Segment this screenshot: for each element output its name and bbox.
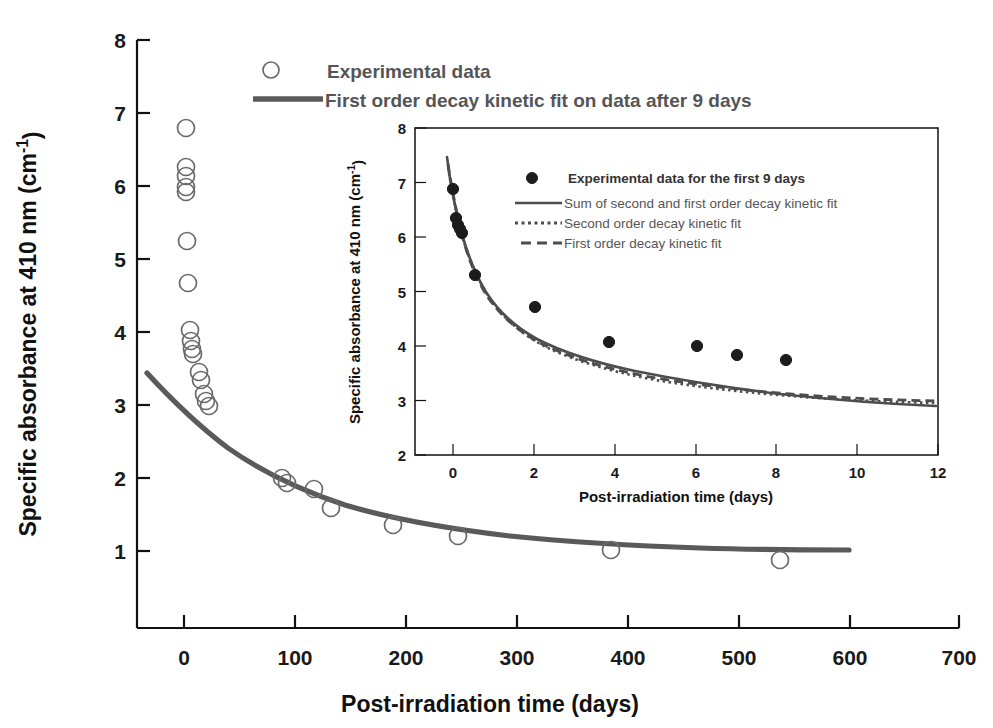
main-y-tick-3: 3 (114, 394, 126, 417)
main-x-tick-700: 700 (941, 646, 976, 669)
main-y-axis-title: Specific absorbance at 410 nm (cm-1) (14, 131, 46, 536)
inset-x-tick-2: 2 (530, 464, 538, 481)
data-point (447, 183, 458, 194)
main-y-tick-1: 1 (114, 540, 126, 563)
main-x-axis-title: Post-irradiation time (days) (341, 691, 639, 717)
main-y-tick-2: 2 (114, 467, 126, 490)
svg-text:Specific absorbance at 410 nm: Specific absorbance at 410 nm (cm-1) (14, 131, 46, 536)
inset-y-axis-title-close: ) (349, 160, 366, 165)
main-y-axis-title-close: ) (19, 131, 45, 139)
main-x-tick-500: 500 (721, 646, 756, 669)
inset-legend-label-1: Experimental data for the first 9 days (568, 171, 805, 186)
inset-panel: 8 7 6 5 4 3 2 0 2 4 6 (346, 120, 947, 505)
main-x-tick-400: 400 (610, 646, 645, 669)
inset-y-tick-3: 3 (398, 393, 406, 410)
inset-legend-label-3: Second order decay kinetic fit (564, 216, 741, 231)
data-point (731, 349, 742, 360)
main-y-tick-7: 7 (114, 102, 126, 125)
inset-y-tick-5: 5 (398, 284, 406, 301)
main-y-tick-6: 6 (114, 175, 126, 198)
main-x-tick-100: 100 (277, 646, 312, 669)
inset-y-axis-title-sup: -1 (346, 165, 357, 174)
data-point (691, 340, 702, 351)
data-point (780, 354, 791, 365)
data-point (603, 336, 614, 347)
inset-y-tick-6: 6 (398, 229, 406, 246)
inset-x-tick-12: 12 (930, 464, 947, 481)
main-x-tick-300: 300 (499, 646, 534, 669)
data-point (469, 269, 480, 280)
inset-x-tick-4: 4 (611, 464, 620, 481)
data-point (529, 301, 540, 312)
data-point (456, 227, 467, 238)
inset-y-axis-title-text: Specific absorbance at 410 nm (cm (346, 174, 363, 424)
inset-x-tick-0: 0 (449, 464, 457, 481)
inset-y-tick-7: 7 (398, 175, 406, 192)
main-y-axis-title-text: Specific absorbance at 410 nm (cm (15, 153, 41, 537)
main-y-tick-5: 5 (114, 248, 126, 271)
main-y-axis-title-sup: -1 (14, 139, 31, 153)
main-legend-label-1: Experimental data (327, 61, 491, 82)
inset-legend-label-2: Sum of second and first order decay kine… (564, 196, 837, 211)
main-y-tick-4: 4 (114, 321, 126, 344)
figure-container: 8 7 6 5 4 3 2 1 0 100 200 300 400 500 (0, 0, 993, 728)
inset-legend-marker-filled-circle-icon (527, 173, 538, 184)
svg-text:Specific absorbance at 410 nm: Specific absorbance at 410 nm (cm-1) (346, 160, 367, 424)
inset-y-tick-4: 4 (398, 338, 407, 355)
inset-y-tick-2: 2 (398, 447, 406, 464)
main-y-tick-8: 8 (114, 29, 126, 52)
inset-y-tick-8: 8 (398, 120, 406, 137)
main-x-tick-0: 0 (178, 646, 190, 669)
main-x-tick-600: 600 (832, 646, 867, 669)
inset-x-tick-8: 8 (772, 464, 780, 481)
inset-x-tick-10: 10 (849, 464, 866, 481)
inset-y-axis-title: Specific absorbance at 410 nm (cm-1) (346, 160, 367, 424)
inset-legend-label-4: First order decay kinetic fit (564, 236, 722, 251)
chart-canvas: 8 7 6 5 4 3 2 1 0 100 200 300 400 500 (0, 0, 993, 728)
inset-x-axis-title: Post-irradiation time (days) (579, 488, 773, 505)
inset-x-tick-6: 6 (692, 464, 700, 481)
main-legend-label-2: First order decay kinetic fit on data af… (325, 90, 752, 111)
main-x-tick-200: 200 (388, 646, 423, 669)
